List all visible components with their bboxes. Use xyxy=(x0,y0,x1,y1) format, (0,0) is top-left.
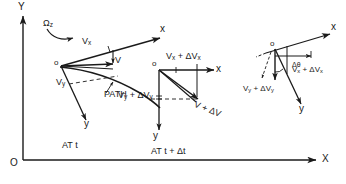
vy-delta: + ΔV xyxy=(127,90,149,100)
vx-delta-subscript: x xyxy=(320,68,323,74)
omega-curved-arrow xyxy=(47,29,73,39)
vx-delta: + ΔV xyxy=(175,51,197,61)
caption-at-t: AT t xyxy=(62,141,78,150)
inset-vx-label: Vx + ΔVx xyxy=(292,66,323,75)
frame-tdt-origin-label: o xyxy=(152,60,156,68)
frame-at-t-plus-dt-group xyxy=(151,64,214,130)
frame-t-vy-label: Vy xyxy=(56,78,65,88)
global-x-axis-label: X xyxy=(322,154,329,164)
frame-t-y-axis xyxy=(61,66,86,120)
frame-t-x-axis-label: x xyxy=(160,24,165,34)
inset-vy-label: Vy + ΔVy xyxy=(243,85,274,94)
frame-t-construction-dashed xyxy=(69,76,118,84)
caption-at-t-plus-dt: AT t + Δt xyxy=(151,147,185,156)
global-y-axis-label: Y xyxy=(18,2,25,12)
figure-canvas: Y X O AT t AT t + Δt Ωz o x y Vx Vy V PA… xyxy=(0,0,346,184)
vx-delta-subscript: x xyxy=(198,54,201,61)
frame-tdt-vx-label: Vx + ΔVx xyxy=(166,52,201,62)
vy-delta-subscript: y xyxy=(271,87,274,93)
omega-subscript: z xyxy=(50,21,53,28)
vy-subscript: y xyxy=(62,80,65,87)
vy-delta: + ΔV xyxy=(251,84,271,93)
frame-tdt-vy-label: Vy + ΔVy xyxy=(118,91,153,101)
frame-t-vx-label: Vx xyxy=(82,37,91,47)
inset-x-axis-tail xyxy=(256,53,266,57)
omega-z-label: Ωz xyxy=(43,19,53,29)
vx-delta: + ΔV xyxy=(300,65,320,74)
frame-tdt-x-axis-label: x xyxy=(216,64,221,74)
frame-t-v-label: V xyxy=(115,56,121,65)
frame-t-x-axis xyxy=(61,38,160,66)
frame-t-y-axis-label: y xyxy=(84,119,89,129)
frame-at-t-group xyxy=(47,29,160,120)
frame-t-origin-label: o xyxy=(54,59,58,67)
inset-angle-arc xyxy=(275,69,283,72)
inset-y-axis-label: y xyxy=(299,104,304,114)
global-origin-label: O xyxy=(10,158,18,168)
vy-delta-subscript: y xyxy=(150,93,153,100)
inset-y-axis xyxy=(275,49,301,104)
vx-subscript: x xyxy=(88,39,91,46)
omega-symbol: Ω xyxy=(43,18,50,28)
frame-t-vx-tick xyxy=(108,46,110,52)
frame-tdt-velocity-vector-edge xyxy=(159,70,196,102)
inset-x-axis-label: x xyxy=(331,22,336,32)
inset-origin-label: o xyxy=(270,40,274,48)
inset-vy-dashed xyxy=(262,52,271,78)
frame-tdt-y-axis-label: y xyxy=(153,131,158,141)
